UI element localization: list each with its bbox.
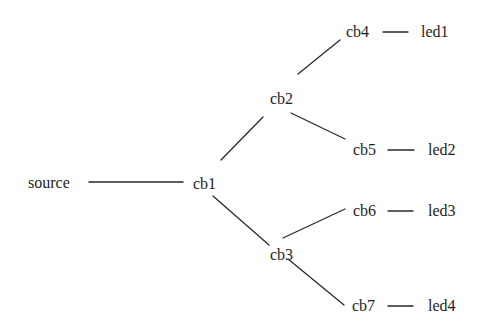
node-led2: led2 [428,142,456,158]
node-cb7: cb7 [352,298,375,314]
node-led1: led1 [421,24,449,40]
edge-cb2-cb5 [291,113,345,139]
node-cb4: cb4 [346,24,369,40]
node-cb5: cb5 [353,142,376,158]
node-cb3: cb3 [270,247,293,263]
node-source: source [28,175,70,191]
edge-cb3-cb6 [283,209,345,238]
node-cb2: cb2 [270,91,293,107]
edge-cb3-cb7 [288,259,344,305]
edges-group [89,32,414,306]
edge-cb1-cb2 [221,117,263,160]
tree-diagram-canvas [0,0,489,328]
node-led3: led3 [428,203,456,219]
node-led4: led4 [428,298,456,314]
node-cb1: cb1 [193,176,216,192]
node-cb6: cb6 [353,203,376,219]
edge-cb2-cb4 [298,40,340,74]
edge-cb1-cb3 [213,196,269,245]
